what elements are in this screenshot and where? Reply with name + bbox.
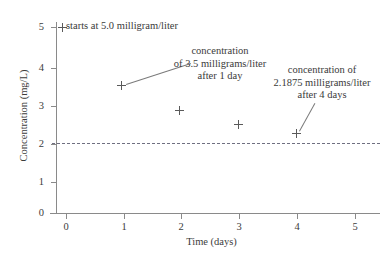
y-tick-0 xyxy=(51,213,57,214)
x-axis-line xyxy=(50,213,380,214)
y-tick-label-1: 1 xyxy=(30,177,44,187)
y-tick-label-4: 4 xyxy=(30,63,44,73)
x-axis-title: Time (days) xyxy=(186,236,237,247)
x-tick-label-5: 5 xyxy=(345,221,365,232)
y-axis-line xyxy=(56,22,57,214)
y-tick-1 xyxy=(51,182,57,183)
y-axis-title: Concentration (mg/L) xyxy=(18,41,29,191)
x-tick-label-4: 4 xyxy=(287,221,307,232)
y-tick-label-3: 3 xyxy=(30,101,44,111)
leader-line-day-4 xyxy=(299,103,315,131)
x-axis-title-wrap: Time (days) xyxy=(0,236,385,247)
x-tick-4 xyxy=(297,214,298,219)
y-tick-3 xyxy=(51,106,57,107)
y-tick-4 xyxy=(51,68,57,69)
x-tick-label-0: 0 xyxy=(56,221,76,232)
y-tick-label-2: 2 xyxy=(30,139,44,149)
x-tick-5 xyxy=(355,214,356,219)
y-tick-label-5: 5 xyxy=(30,22,44,32)
concentration-vs-time-chart: 5 4 3 2 1 0 0 1 2 3 4 5 Time (days) Conc… xyxy=(0,0,385,257)
x-tick-0 xyxy=(66,214,67,219)
x-tick-2 xyxy=(181,214,182,219)
y-tick-2 xyxy=(51,144,57,145)
x-tick-label-1: 1 xyxy=(114,221,134,232)
x-tick-1 xyxy=(124,214,125,219)
data-point-day-2 xyxy=(175,106,184,115)
annotation-starts-at: starts at 5.0 milligram/liter xyxy=(66,20,178,33)
x-tick-label-2: 2 xyxy=(171,221,191,232)
x-tick-label-3: 3 xyxy=(229,221,249,232)
data-point-day-3 xyxy=(234,120,243,129)
data-point-day-1 xyxy=(117,81,126,90)
y-tick-5 xyxy=(51,27,57,28)
x-tick-3 xyxy=(239,214,240,219)
asymptote-dashed-line xyxy=(52,143,380,144)
annotation-day-4: concentration of 2.1875 milligrams/liter… xyxy=(262,64,382,102)
y-tick-label-0: 0 xyxy=(30,208,44,218)
